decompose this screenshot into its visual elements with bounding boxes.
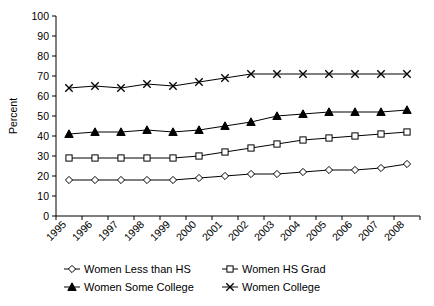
x-axis-tick-label: 2001 bbox=[199, 218, 224, 243]
data-point bbox=[300, 137, 306, 143]
data-point bbox=[117, 176, 124, 183]
y-axis-tick-label: 100 bbox=[31, 10, 49, 22]
legend-item[interactable]: Women HS Grad bbox=[222, 263, 326, 275]
data-point bbox=[170, 155, 176, 161]
data-point bbox=[274, 141, 280, 147]
x-axis-tick-label: 2000 bbox=[173, 218, 198, 243]
y-axis-tick-label: 40 bbox=[37, 130, 49, 142]
x-axis-tick-label: 2008 bbox=[381, 218, 406, 243]
data-point bbox=[91, 176, 98, 183]
x-axis-tick-label: 1999 bbox=[147, 218, 172, 243]
data-point bbox=[403, 106, 411, 114]
data-point bbox=[118, 155, 124, 161]
line-chart: 0102030405060708090100Percent19951996199… bbox=[0, 0, 434, 306]
data-point bbox=[325, 166, 332, 173]
data-point bbox=[299, 168, 306, 175]
data-point bbox=[221, 172, 228, 179]
data-point bbox=[248, 145, 254, 151]
data-point bbox=[66, 155, 72, 161]
x-axis-tick-label: 1997 bbox=[95, 218, 120, 243]
data-point bbox=[404, 129, 410, 135]
data-point bbox=[222, 149, 228, 155]
y-axis-title: Percent bbox=[7, 98, 19, 134]
x-axis-tick-label: 2005 bbox=[303, 218, 328, 243]
legend-marker-icon bbox=[227, 266, 233, 272]
y-axis-tick-label: 70 bbox=[37, 70, 49, 82]
data-point bbox=[378, 131, 384, 137]
x-axis-tick-label: 1996 bbox=[69, 218, 94, 243]
data-point bbox=[352, 133, 358, 139]
y-axis-tick-label: 0 bbox=[43, 210, 49, 222]
y-axis-tick-label: 10 bbox=[37, 190, 49, 202]
legend-item-label: Women Less than HS bbox=[84, 263, 191, 275]
data-point bbox=[143, 126, 151, 134]
legend-item[interactable]: Women College bbox=[222, 281, 320, 293]
data-point bbox=[144, 155, 150, 161]
data-point bbox=[247, 170, 254, 177]
y-axis-tick-label: 30 bbox=[37, 150, 49, 162]
x-axis-tick-label: 2002 bbox=[225, 218, 250, 243]
legend-item-label: Women College bbox=[242, 281, 320, 293]
data-point bbox=[196, 153, 202, 159]
data-point bbox=[403, 160, 410, 167]
x-axis-tick-label: 1998 bbox=[121, 218, 146, 243]
chart-canvas: 0102030405060708090100Percent19951996199… bbox=[0, 0, 434, 306]
y-axis-tick-label: 80 bbox=[37, 50, 49, 62]
x-axis-tick-label: 2004 bbox=[277, 218, 302, 243]
data-point bbox=[143, 176, 150, 183]
data-point bbox=[169, 176, 176, 183]
y-axis-tick-label: 50 bbox=[37, 110, 49, 122]
data-point bbox=[195, 174, 202, 181]
x-axis-tick-label: 2003 bbox=[251, 218, 276, 243]
legend-item[interactable]: Women Less than HS bbox=[64, 263, 191, 275]
data-point bbox=[326, 135, 332, 141]
legend-item[interactable]: Women Some College bbox=[64, 281, 194, 293]
legend-item-label: Women Some College bbox=[84, 281, 194, 293]
x-axis-tick-label: 2007 bbox=[355, 218, 380, 243]
data-point bbox=[377, 164, 384, 171]
series-3 bbox=[65, 106, 411, 138]
data-point bbox=[65, 176, 72, 183]
series-1 bbox=[65, 160, 410, 183]
data-point bbox=[273, 170, 280, 177]
y-axis-tick-label: 90 bbox=[37, 30, 49, 42]
x-axis-tick-label: 2006 bbox=[329, 218, 354, 243]
data-point bbox=[92, 155, 98, 161]
y-axis-tick-label: 20 bbox=[37, 170, 49, 182]
series-4 bbox=[65, 70, 410, 91]
y-axis-tick-label: 60 bbox=[37, 90, 49, 102]
legend-marker-icon bbox=[68, 265, 75, 272]
data-point bbox=[351, 166, 358, 173]
legend-item-label: Women HS Grad bbox=[242, 263, 326, 275]
